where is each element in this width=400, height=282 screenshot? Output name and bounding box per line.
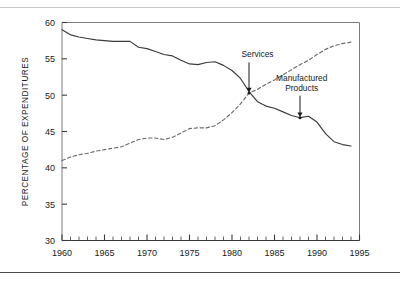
x-axis-tick-label: 1960 bbox=[52, 248, 72, 258]
annotation-label: Products bbox=[285, 83, 318, 93]
annotation-point-marker bbox=[299, 116, 302, 119]
y-axis-tick-label: 30 bbox=[45, 236, 55, 246]
annotation-point-marker bbox=[248, 91, 251, 94]
chart-canvas: 1960196519701975198019851990199530354045… bbox=[0, 0, 400, 282]
y-axis-title: PERCENTAGE OF EXPENDITURES bbox=[21, 57, 30, 207]
line-chart: 1960196519701975198019851990199530354045… bbox=[0, 0, 400, 282]
x-axis-tick-label: 1995 bbox=[349, 248, 369, 258]
series-line-services bbox=[62, 42, 351, 160]
x-axis-tick-label: 1985 bbox=[264, 248, 284, 258]
x-axis-tick-label: 1980 bbox=[222, 248, 242, 258]
plot-frame bbox=[62, 23, 360, 241]
y-axis-tick-label: 60 bbox=[45, 18, 55, 28]
y-axis-tick-label: 55 bbox=[45, 54, 55, 64]
y-axis-tick-label: 40 bbox=[45, 163, 55, 173]
y-axis-tick-label: 45 bbox=[45, 127, 55, 137]
x-axis-tick-label: 1965 bbox=[94, 248, 114, 258]
annotation-label: Manufactured bbox=[276, 73, 328, 83]
x-axis-tick-label: 1975 bbox=[179, 248, 199, 258]
x-axis-tick-label: 1970 bbox=[137, 248, 157, 258]
x-axis-tick-label: 1990 bbox=[307, 248, 327, 258]
annotation-label: Services bbox=[241, 49, 273, 59]
y-axis-tick-label: 50 bbox=[45, 91, 55, 101]
y-axis-tick-label: 35 bbox=[45, 200, 55, 210]
